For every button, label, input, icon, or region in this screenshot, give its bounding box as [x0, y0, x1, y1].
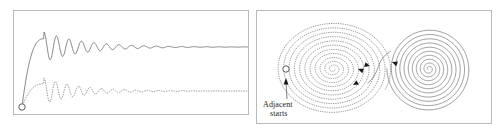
adjacent-starts-line-2: starts — [263, 109, 293, 118]
adjacent-starts-label: Adjacent starts — [263, 100, 293, 118]
right-lobe-solid-spiral — [387, 30, 469, 110]
flow-arrow-2 — [353, 80, 359, 85]
start-marker-right — [283, 66, 289, 72]
time-series-panel — [13, 10, 249, 115]
start-marker-left — [19, 104, 25, 110]
attractor-panel: Adjacent starts — [256, 10, 492, 124]
trajectory-a-solid — [22, 32, 248, 107]
trajectory-b-dotted — [22, 78, 248, 107]
adjacent-starts-line-1: Adjacent — [263, 100, 293, 109]
figure-root: Adjacent starts — [0, 0, 502, 134]
time-series-plot — [14, 11, 248, 114]
flow-arrow-3 — [364, 62, 370, 67]
left-lobe-dotted-spiral — [278, 23, 390, 112]
transfer-path — [368, 51, 391, 83]
flow-arrow-4 — [392, 62, 398, 67]
